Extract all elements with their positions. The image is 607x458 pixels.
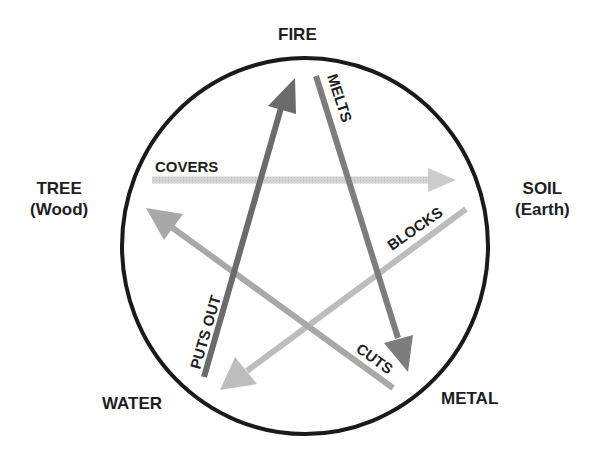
- node-soil-sublabel: (Earth): [515, 199, 570, 220]
- five-elements-diagram: COVERS MELTS BLOCKS PUTS OUT CUTS: [0, 0, 607, 458]
- node-soil: SOIL (Earth): [515, 178, 570, 220]
- node-fire: FIRE: [278, 24, 317, 45]
- node-metal-label: METAL: [441, 388, 498, 409]
- relation-label-covers: COVERS: [155, 158, 218, 175]
- arrow-cuts: [146, 208, 393, 388]
- cycle-circle: [122, 58, 488, 434]
- node-water: WATER: [102, 393, 162, 414]
- arrow-blocks: [220, 209, 466, 390]
- node-metal: METAL: [441, 388, 498, 409]
- node-tree-sublabel: (Wood): [30, 199, 88, 220]
- node-water-label: WATER: [102, 393, 162, 414]
- node-tree: TREE (Wood): [30, 178, 88, 220]
- arrow-puts-out: [204, 78, 296, 377]
- arrow-melts: [316, 76, 413, 372]
- node-fire-label: FIRE: [278, 24, 317, 45]
- node-soil-label: SOIL: [515, 178, 570, 199]
- node-tree-label: TREE: [30, 178, 88, 199]
